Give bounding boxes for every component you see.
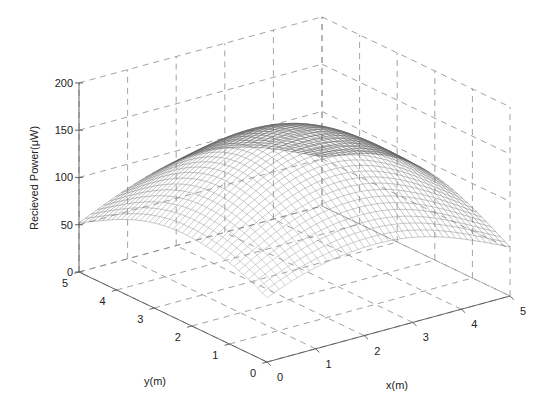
y-tick-label: 3 bbox=[137, 313, 143, 325]
x-tick bbox=[413, 322, 417, 326]
x-tick-label: 4 bbox=[471, 318, 477, 330]
x-tick bbox=[316, 349, 320, 353]
x-tick-label: 2 bbox=[374, 345, 380, 357]
grid-line-x-floor bbox=[273, 219, 461, 309]
x-tick-label: 0 bbox=[277, 371, 283, 383]
y-tick-label: 2 bbox=[175, 331, 181, 343]
x-tick-label: 3 bbox=[423, 331, 429, 343]
y-tick bbox=[225, 344, 230, 345]
y-tick-label: 1 bbox=[212, 349, 218, 361]
y-tick bbox=[187, 326, 192, 327]
grid-line-y-floor bbox=[192, 260, 435, 326]
y-tick bbox=[262, 362, 267, 363]
grid-lines bbox=[79, 17, 510, 362]
y-tick-label: 5 bbox=[62, 277, 68, 289]
z-tick-label: 100 bbox=[55, 171, 73, 183]
grid-line-z bbox=[79, 159, 322, 225]
y-tick bbox=[112, 290, 117, 291]
x-tick bbox=[267, 362, 271, 366]
surface-mesh bbox=[79, 123, 510, 297]
grid-line-z bbox=[322, 17, 510, 107]
grid-line-x-floor bbox=[128, 259, 316, 349]
y-axis-line bbox=[79, 272, 267, 362]
surface-plot: 050100150200012345012345 Recieved Power(… bbox=[0, 0, 548, 417]
grid-line-z bbox=[79, 64, 322, 130]
grid-line-x-floor bbox=[225, 232, 413, 322]
z-tick-label: 50 bbox=[61, 219, 73, 231]
x-tick bbox=[510, 296, 514, 300]
x-axis-label: x(m) bbox=[386, 379, 408, 391]
z-axis-label: Recieved Power(μW) bbox=[28, 126, 40, 230]
z-tick-label: 150 bbox=[55, 124, 73, 136]
grid-line-y-floor bbox=[154, 242, 397, 308]
y-tick-label: 0 bbox=[250, 367, 256, 379]
grid-line-y-floor bbox=[79, 206, 322, 272]
grid-line-z bbox=[79, 17, 322, 83]
x-tick bbox=[461, 309, 465, 313]
grid-line-y-floor bbox=[117, 224, 360, 290]
y-tick bbox=[74, 272, 79, 273]
grid-line-z bbox=[322, 111, 510, 201]
x-tick-label: 5 bbox=[520, 305, 526, 317]
y-tick bbox=[149, 308, 154, 309]
y-axis-label: y(m) bbox=[144, 375, 166, 387]
grid-line-y-floor bbox=[229, 278, 472, 344]
x-tick bbox=[364, 336, 368, 340]
x-tick-label: 1 bbox=[326, 358, 332, 370]
z-tick-label: 200 bbox=[55, 77, 73, 89]
y-tick-label: 4 bbox=[100, 295, 106, 307]
